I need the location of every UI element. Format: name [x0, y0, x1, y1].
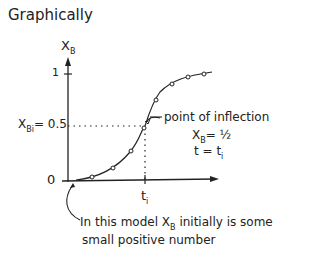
- initial-annotation-line1: In this model XB initially is some: [80, 215, 273, 229]
- y-tick-1: 1: [52, 66, 59, 79]
- y-axis-label: XB: [61, 38, 75, 53]
- inflection-annotation-line3: t = ti: [194, 144, 223, 158]
- initial-annotation-line2: small positive number: [82, 233, 216, 247]
- inflection-annotation-line1: point of inflection: [164, 110, 269, 124]
- y-tick-0: 0: [47, 172, 55, 187]
- inflection-level-label: XBi= 0.5: [18, 117, 67, 131]
- x-tick-ti: ti: [141, 188, 148, 203]
- inflection-annotation-line2: XB= ½: [192, 128, 231, 142]
